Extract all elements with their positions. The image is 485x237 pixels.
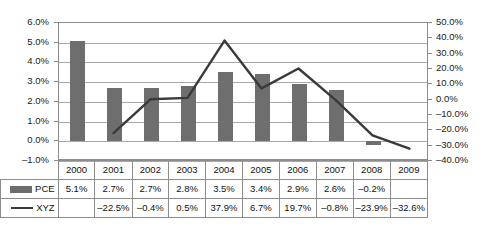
table-cell: 6.7% [243, 199, 280, 218]
legend-cell-xyz[interactable]: XYZ [1, 199, 59, 218]
table-cell: 2.9% [279, 180, 316, 199]
left-axis-label: 5.0% [0, 37, 49, 47]
left-axis-label: 0.0% [0, 135, 49, 145]
table-cell: –22.5% [95, 199, 132, 218]
table-cell: 37.9% [205, 199, 242, 218]
table-cell: 2.6% [316, 180, 353, 199]
table-cell: 2.8% [169, 180, 206, 199]
left-axis-label: –1.0% [0, 155, 49, 165]
table-header-year: 2004 [205, 161, 242, 180]
table-header-year: 2006 [279, 161, 316, 180]
left-axis-label: 3.0% [0, 76, 49, 86]
table-cell [390, 180, 427, 199]
right-axis-label: –40.0% [436, 155, 468, 165]
table-header-year: 2009 [390, 161, 427, 180]
chart-figure: 2000200120022003200420052006200720082009… [0, 0, 485, 237]
right-axis-tick [428, 145, 432, 146]
left-axis-tick [54, 160, 58, 161]
left-axis-label: 2.0% [0, 96, 49, 106]
table-cell: 2.7% [95, 180, 132, 199]
right-axis-tick [428, 160, 432, 161]
left-axis-tick [54, 42, 58, 43]
right-axis-tick [428, 99, 432, 100]
left-axis-tick [54, 81, 58, 82]
left-axis-tick [54, 61, 58, 62]
left-axis-label: 4.0% [0, 56, 49, 66]
right-axis-tick [428, 22, 432, 23]
table-row: XYZ–22.5%–0.4%0.5%37.9%6.7%19.7%–0.8%–23… [1, 199, 428, 218]
left-axis-tick [54, 140, 58, 141]
table-header-row: 2000200120022003200420052006200720082009 [1, 161, 428, 180]
legend-label: PCE [35, 183, 55, 194]
table-cell: –32.6% [390, 199, 427, 218]
data-table: 2000200120022003200420052006200720082009… [0, 160, 428, 218]
table-header-year: 2003 [169, 161, 206, 180]
table-header-year: 2002 [132, 161, 169, 180]
left-axis-tick [54, 121, 58, 122]
xyz-line-path [114, 41, 410, 149]
right-axis-label: –10.0% [436, 109, 468, 119]
table-header-year: 2007 [316, 161, 353, 180]
table-header-year: 2005 [243, 161, 280, 180]
table-header-year: 2008 [353, 161, 390, 180]
right-axis-label: 0.0% [436, 94, 458, 104]
table-header-year: 2001 [95, 161, 132, 180]
left-axis-tick [54, 101, 58, 102]
table-cell [58, 199, 95, 218]
table-cell: 19.7% [279, 199, 316, 218]
table-header-year: 2000 [58, 161, 95, 180]
table-cell: 3.4% [243, 180, 280, 199]
right-axis-label: 30.0% [436, 48, 463, 58]
right-axis-label: –20.0% [436, 124, 468, 134]
right-axis-label: –30.0% [436, 140, 468, 150]
table-cell: –23.9% [353, 199, 390, 218]
right-axis-tick [428, 129, 432, 130]
right-axis-tick [428, 68, 432, 69]
table-cell: –0.8% [316, 199, 353, 218]
line-swatch-icon [11, 207, 33, 209]
left-axis-tick [54, 22, 58, 23]
table-cell: 5.1% [58, 180, 95, 199]
table-cell: –0.4% [132, 199, 169, 218]
table-cell: 3.5% [205, 180, 242, 199]
right-axis-label: 40.0% [436, 32, 463, 42]
right-axis-tick [428, 37, 432, 38]
table-cell: 0.5% [169, 199, 206, 218]
bar-swatch-icon [10, 186, 32, 193]
table-cell: 2.7% [132, 180, 169, 199]
right-axis-label: 10.0% [436, 78, 463, 88]
right-axis-tick [428, 114, 432, 115]
left-axis-label: 6.0% [0, 17, 49, 27]
right-axis-tick [428, 83, 432, 84]
legend-cell-pce[interactable]: PCE [1, 180, 59, 199]
right-axis-tick [428, 53, 432, 54]
right-axis-label: 20.0% [436, 63, 463, 73]
legend-label: XYZ [36, 202, 54, 213]
table-row: PCE5.1%2.7%2.7%2.8%3.5%3.4%2.9%2.6%–0.2% [1, 180, 428, 199]
right-axis-label: 50.0% [436, 17, 463, 27]
left-axis-label: 1.0% [0, 116, 49, 126]
table-cell: –0.2% [353, 180, 390, 199]
